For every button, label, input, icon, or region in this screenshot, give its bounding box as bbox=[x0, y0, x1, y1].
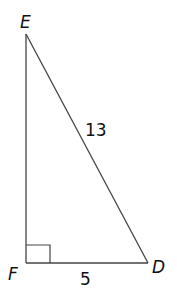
side-label-ed: 13 bbox=[85, 120, 107, 140]
side-ed bbox=[26, 34, 148, 263]
vertex-label-e: E bbox=[20, 12, 31, 32]
right-angle-marker bbox=[26, 245, 50, 263]
triangle-diagram: E F D 13 5 bbox=[0, 0, 177, 296]
vertex-label-d: D bbox=[152, 257, 165, 277]
vertex-label-f: F bbox=[8, 264, 18, 284]
side-label-fd: 5 bbox=[80, 269, 91, 289]
